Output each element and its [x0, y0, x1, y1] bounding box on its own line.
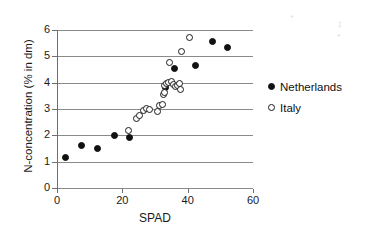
y-tick-6 — [52, 30, 57, 31]
gridline-y-6 — [57, 30, 253, 31]
legend-label: Italy — [280, 102, 301, 114]
x-tick-0 — [57, 189, 58, 193]
gridline-y-0 — [57, 188, 253, 189]
x-tick-label-20: 20 — [109, 195, 135, 206]
x-axis-title: SPAD — [57, 212, 253, 224]
legend-item-italy: Italy — [268, 99, 372, 116]
x-tick-60 — [253, 189, 254, 193]
y-axis-line — [57, 30, 58, 189]
data-point-italy — [146, 106, 153, 113]
scatter-chart-figure: 0123456 0204060 SPAD N-concentration (% … — [0, 0, 374, 241]
scan-artifact: ⁒ — [338, 22, 341, 29]
data-point-netherlands — [94, 145, 101, 152]
x-tick-40 — [188, 189, 189, 193]
legend-item-netherlands: Netherlands — [268, 78, 372, 95]
data-point-italy — [178, 48, 185, 55]
y-tick-2 — [52, 135, 57, 136]
gridline-y-1 — [57, 162, 253, 163]
y-tick-1 — [52, 162, 57, 163]
data-point-netherlands — [62, 154, 69, 161]
data-point-netherlands — [111, 132, 118, 139]
y-tick-5 — [52, 56, 57, 57]
y-tick-3 — [52, 109, 57, 110]
x-tick-20 — [122, 189, 123, 193]
scan-artifact: ⁌ — [290, 14, 294, 21]
data-point-netherlands — [192, 62, 199, 69]
gridline-y-5 — [57, 56, 253, 57]
y-tick-4 — [52, 83, 57, 84]
gridline-y-2 — [57, 135, 253, 136]
x-tick-label-60: 60 — [240, 195, 266, 206]
gridline-y-4 — [57, 83, 253, 84]
x-tick-label-0: 0 — [44, 195, 70, 206]
data-point-netherlands — [171, 65, 178, 72]
data-point-italy — [177, 86, 184, 93]
y-axis-title: N-concentration (% in dm) — [22, 16, 34, 196]
open-circle-icon — [268, 104, 275, 111]
data-point-italy — [159, 101, 166, 108]
filled-circle-icon — [268, 83, 275, 90]
legend-label: Netherlands — [280, 81, 342, 93]
scan-artifact: ⁌ — [337, 33, 341, 40]
data-point-italy — [166, 59, 173, 66]
chart-legend: NetherlandsItaly — [268, 78, 372, 120]
x-tick-label-40: 40 — [175, 195, 201, 206]
